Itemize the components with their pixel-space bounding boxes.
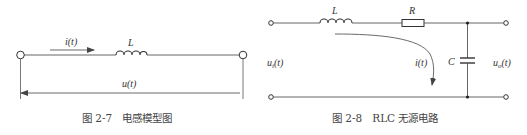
inductor-coil-icon: [116, 51, 147, 55]
figure-caption: 图 2-7 电感模型图: [82, 112, 172, 124]
inductor-label: L: [331, 5, 338, 16]
current-label: i(t): [415, 57, 428, 69]
terminal-in-bottom-icon: [269, 95, 274, 100]
figure-2-8-rlc-circuit: L R C i(t) ui(t) uo(t) 图 2-8 RLC 无源电路: [267, 5, 512, 124]
resistor-label: R: [408, 5, 415, 16]
diagram-canvas: i(t) L u(t) 图 2-7 电感模型图 L R C i(t): [0, 0, 527, 135]
terminal-out-top-icon: [504, 21, 509, 26]
resistor-icon: [402, 20, 424, 27]
inductor-coil-icon: [320, 19, 352, 23]
terminal-right-icon: [239, 51, 247, 59]
junction-bottom-icon: [466, 95, 469, 98]
figure-2-7-inductor-model: i(t) L u(t) 图 2-7 电感模型图: [17, 36, 247, 124]
terminal-out-bottom-icon: [504, 95, 509, 100]
output-voltage-label: uo(t): [493, 57, 512, 70]
capacitor-label: C: [448, 56, 455, 67]
junction-top-icon: [466, 21, 469, 24]
input-voltage-label: ui(t): [267, 57, 284, 70]
voltage-label: u(t): [122, 78, 137, 90]
inductor-label: L: [127, 37, 134, 48]
figure-caption: 图 2-8 RLC 无源电路: [332, 112, 439, 124]
terminal-left-icon: [17, 51, 25, 59]
terminal-in-top-icon: [269, 21, 274, 26]
current-label: i(t): [65, 36, 78, 48]
